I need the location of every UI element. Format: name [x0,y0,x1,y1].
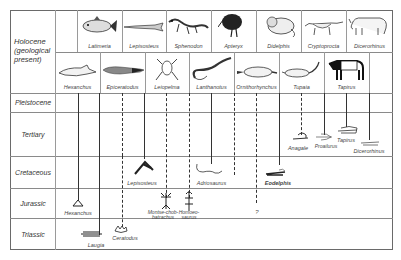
label-lanthanotus: Lanthanotus [189,84,234,90]
lineage-ceratodus [122,156,123,232]
anagale-fossil [292,131,310,141]
ornithorhynchus-illustration [236,64,278,80]
label-lepisosteus-fossil: Lepisosteus [122,180,162,186]
lineage-epiceratodus-laugia [99,93,100,235]
label-apteryx: Apteryx [211,43,256,49]
lineage-ornithorhynchus [256,93,257,203]
hexanchus-tooth-fossil [72,199,84,207]
tapirus-illustration [327,58,367,82]
lanthanotus-illustration [191,56,233,82]
lepisosteus-illustration [123,20,165,34]
era-cretaceous: Cretaceous [11,156,55,188]
tapirus-fossil [337,125,359,135]
lineage-tapirus [346,93,347,127]
label-eodelphis: Eodelphis [258,180,298,186]
latimeria-illustration [80,14,118,36]
lepisosteus-fossil [133,160,155,176]
cryptoprocta-illustration [303,18,345,38]
label-latimeria: Latimeria [77,43,122,49]
divider-cretaceous-jurassic [10,188,393,189]
lineage-hexanchus [78,93,79,200]
label-dicerorhinus: Dicerorhinus [346,43,393,49]
adriosaurus-fossil [195,162,223,176]
divider-holocene-pleistocene [10,93,393,94]
apteryx-illustration [218,12,250,38]
lineage-tupaia [301,93,302,135]
eodelphis-fossil [265,167,287,177]
uncertain-mark: ? [253,209,261,215]
label-adriosaurus: Adriosaurus [189,180,234,186]
label-montsechobatrachus-b: batrachus [148,214,178,220]
lineage-dicerorhinus [369,93,370,140]
label-leiopelma: Leiopelma [145,84,189,90]
ceratodus-tooth-fossil [114,224,128,234]
dicerorhinus-illustration [348,14,390,38]
lineage-lepisosteus [122,93,123,156]
era-pleistocene: Pleistocene [11,93,55,112]
label-hexanchus: Hexanchus [55,84,100,90]
label-tapirus-fossil: Tapirus [336,137,356,143]
divider-holocene-inner [55,52,393,53]
cell-divider [369,52,370,93]
era-holocene: Holocene (geological present) [11,30,54,70]
label-tapirus: Tapirus [324,84,369,90]
era-tertiary: Tertiary [11,112,55,156]
lineage-lanthanotus-dash [234,93,235,175]
leiopelma-illustration [153,56,181,84]
lineage-leiopelma [166,93,167,198]
proailurus-fossil [315,133,333,141]
epiceratodus-illustration [102,64,144,76]
hexanchus-illustration [57,63,97,79]
label-epiceratodus: Epiceratodus [100,84,145,90]
label-anagale: Anagale [287,145,309,151]
era-triassic: Triassic [11,218,55,250]
laugia-fossil [80,230,104,238]
label-tupaia: Tupaia [279,84,324,90]
label-ceratodus: Ceratodus [110,235,140,241]
label-ornithorhynchus: Ornithorhynchus [234,84,279,90]
divider-jurassic-triassic [10,218,393,219]
lineage-lanthanotus [211,93,212,164]
divider-tertiary-cretaceous [10,156,393,157]
label-homoeosaurus-b: saurus [177,214,201,220]
sphenodon-illustration [167,14,209,38]
era-jurassic: Jurassic [11,188,55,218]
label-didelphis: Didelphis [256,43,301,49]
label-hexanchus-fossil: Hexanchus [58,210,98,216]
label-dicerorhinus-fossil: Dicerorhinus [353,148,385,154]
divider-pleistocene-tertiary [10,112,393,113]
label-laugia: Laugia [84,242,108,248]
lineage-eodelphis [279,93,280,165]
lineage-lepisosteus-solid [144,93,145,159]
label-cryptoprocta: Cryptoprocta [301,43,346,49]
dicerorhinus-fossil [360,140,380,146]
label-proailurus: Proailurus [314,143,338,149]
montsechobatrachus-fossil [159,191,173,211]
era-column-divider [55,10,56,250]
label-lepisosteus: Lepisosteus [122,43,166,49]
tupaia-illustration [281,60,323,80]
didelphis-illustration [261,14,299,38]
label-sphenodon: Sphenodon [166,43,211,49]
lineage-proailurus [324,93,325,135]
